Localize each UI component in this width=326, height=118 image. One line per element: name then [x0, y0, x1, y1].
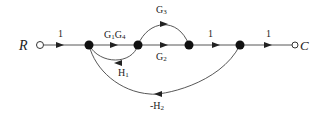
output-label: C — [300, 38, 309, 53]
h2-branch — [89, 45, 240, 94]
node-2 — [134, 41, 143, 50]
input-label: R — [18, 38, 28, 53]
gain-g2: G2 — [156, 51, 167, 63]
arrow-h2 — [154, 91, 162, 97]
signal-flow-graph: R C 1 G1G4 G3 G2 H1 -H2 1 1 — [0, 0, 326, 118]
g3-branch — [138, 25, 189, 45]
gain-n3-n4: 1 — [208, 28, 213, 39]
node-4 — [236, 41, 245, 50]
diagram-svg: R C 1 G1G4 G3 G2 H1 -H2 1 1 — [0, 0, 326, 118]
node-1 — [85, 41, 94, 50]
node-3 — [185, 41, 194, 50]
arrow-g3 — [160, 21, 168, 27]
arrow-g1g4 — [110, 42, 118, 48]
arrow-g2 — [160, 42, 168, 48]
gain-g3: G3 — [156, 4, 167, 16]
gain-n4-c: 1 — [266, 28, 271, 39]
h1-branch — [89, 45, 138, 60]
gain-r-n1: 1 — [58, 28, 63, 39]
gain-g1g4: G1G4 — [104, 29, 126, 41]
arrow-r-n1 — [56, 42, 64, 48]
arrow-n3-n4 — [212, 42, 220, 48]
arrow-h1 — [114, 60, 122, 66]
input-terminal — [37, 42, 44, 49]
output-terminal — [292, 42, 298, 48]
gain-h1: H1 — [118, 67, 129, 79]
gain-h2: -H2 — [150, 100, 165, 112]
arrow-n4-c — [264, 42, 272, 48]
